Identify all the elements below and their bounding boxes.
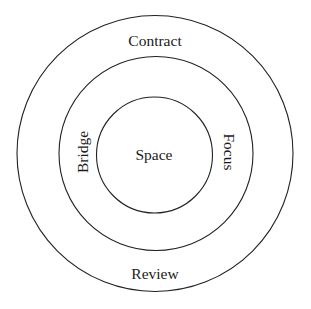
label-space: Space — [135, 147, 172, 163]
label-contract: Contract — [128, 33, 181, 49]
label-review: Review — [131, 266, 178, 282]
label-focus: Focus — [221, 133, 237, 170]
concentric-circle-diagram: Contract Review Bridge Focus Space — [0, 0, 311, 309]
label-bridge: Bridge — [75, 131, 91, 173]
